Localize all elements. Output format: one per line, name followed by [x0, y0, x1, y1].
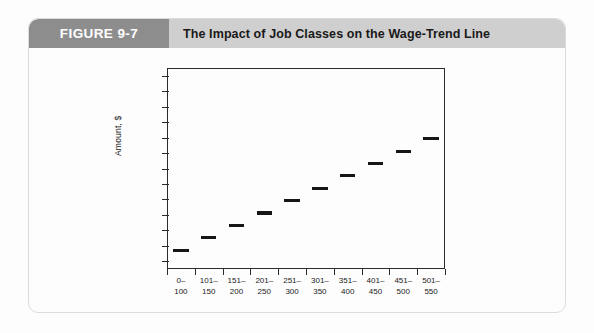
- figure-card: FIGURE 9-7 The Impact of Job Classes on …: [28, 18, 566, 313]
- y-axis-tick: [162, 138, 169, 139]
- step-bar: [201, 236, 217, 239]
- step-bar: [173, 249, 189, 252]
- x-axis-tick: [195, 269, 196, 275]
- y-axis-tick: [162, 169, 169, 170]
- step-bar: [312, 187, 328, 190]
- x-axis-label-line: 550: [411, 287, 451, 298]
- x-axis-tick: [306, 269, 307, 275]
- figure-number-label: FIGURE 9-7: [29, 19, 169, 48]
- y-axis-label: Amount, $: [113, 115, 123, 156]
- step-bar: [229, 224, 245, 227]
- y-axis-tick: [162, 261, 169, 262]
- figure-title: The Impact of Job Classes on the Wage-Tr…: [169, 19, 565, 48]
- x-axis-tick: [417, 269, 418, 275]
- x-axis-tick: [389, 269, 390, 275]
- step-bar: [340, 174, 356, 177]
- chart-area: Amount, $ 0–100101–150151–200201–250251–…: [29, 48, 565, 312]
- x-axis-tick: [445, 269, 446, 275]
- y-axis-tick: [162, 122, 169, 123]
- step-bar: [368, 162, 384, 165]
- y-axis-tick: [162, 246, 169, 247]
- y-axis-tick: [162, 107, 169, 108]
- y-axis-tick: [162, 215, 169, 216]
- x-axis-tick: [278, 269, 279, 275]
- step-bar: [284, 199, 300, 202]
- step-bar: [423, 137, 439, 140]
- x-axis-tick: [362, 269, 363, 275]
- x-axis-label-line: 501–: [411, 276, 451, 287]
- figure-header: FIGURE 9-7 The Impact of Job Classes on …: [29, 19, 565, 48]
- y-axis-tick: [162, 76, 169, 77]
- x-axis-label: 501–550: [411, 276, 451, 297]
- x-axis-tick: [334, 269, 335, 275]
- y-axis-tick: [162, 230, 169, 231]
- y-axis-tick: [162, 153, 169, 154]
- y-axis-tick: [162, 184, 169, 185]
- y-axis-tick: [162, 91, 169, 92]
- step-bar: [396, 150, 412, 153]
- x-axis-tick: [250, 269, 251, 275]
- y-axis-tick: [162, 199, 169, 200]
- x-axis-tick: [223, 269, 224, 275]
- x-axis-tick: [167, 269, 168, 275]
- step-bar: [257, 211, 273, 214]
